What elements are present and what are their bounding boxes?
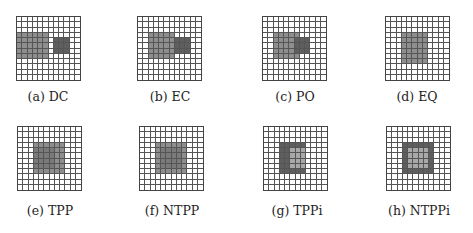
panel-dc: (a) DC [0,0,120,116]
panel-tppi: (g) TPPi [235,116,355,232]
grid-cell [76,185,81,190]
caption-dc: (a) DC [0,89,108,104]
grid-cell [196,75,201,80]
caption-tppi: (g) TPPi [237,203,357,218]
grid-tppi [263,126,328,191]
grid-ec [137,16,202,81]
panel-tpp: (e) TPP [0,116,120,232]
caption-po: (c) PO [235,89,355,104]
grid-dc [16,16,81,81]
grid-tpp [17,126,82,191]
grid-cell [445,185,450,190]
panel-po: (c) PO [235,0,355,116]
grid-eq [385,16,450,81]
panel-ntppi: (h) NTPPi [353,116,473,232]
panel-eq: (d) EQ [353,0,473,116]
grid-cell [322,185,327,190]
grid-po [262,16,327,81]
panel-ec: (b) EC [120,0,240,116]
caption-tpp: (e) TPP [0,203,110,218]
caption-eq: (d) EQ [357,89,473,104]
caption-ntpp: (f) NTPP [112,203,232,218]
grid-cell [198,185,203,190]
grid-ntppi [386,126,451,191]
caption-ec: (b) EC [110,89,230,104]
panel-ntpp: (f) NTPP [120,116,240,232]
grid-ntpp [139,126,204,191]
caption-ntppi: (h) NTPPi [359,203,473,218]
grid-cell [321,75,326,80]
grid-cell [75,75,80,80]
grid-cell [444,75,449,80]
